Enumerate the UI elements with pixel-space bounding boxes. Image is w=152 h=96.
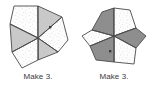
dot-marker-icon [49,26,51,28]
shape-area-left [0,0,76,74]
worksheet-page: Make 3. [0,0,152,96]
figure-cell-left: Make 3. [0,0,76,96]
dot-marker-icon [109,50,111,52]
column-divider [76,0,77,96]
hexagon-six-wedges-right [76,0,152,74]
figure-cell-right: Make 3. [76,0,152,96]
shape-area-right [76,0,152,74]
hexagon-six-wedges-left [0,0,76,74]
